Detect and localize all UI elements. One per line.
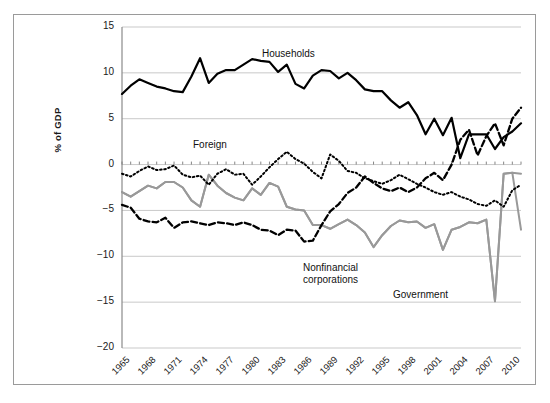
y-axis-label: % of GDP <box>52 70 63 190</box>
series-annotation: Households <box>262 48 315 60</box>
series-annotation: Foreign <box>193 139 227 151</box>
series-annotation: Government <box>393 289 448 301</box>
y-tick-label: 5 <box>80 112 114 123</box>
figure-container: % of GDP 151050−5−10−15−20 1965196819711… <box>0 0 550 403</box>
series-annotation: Nonfinancial <box>303 262 358 274</box>
series-line-foreign <box>122 152 521 207</box>
series-annotation: corporations <box>303 274 358 286</box>
y-tick-label: 15 <box>80 20 114 31</box>
y-tick-label: 0 <box>80 158 114 169</box>
y-tick-label: −5 <box>80 203 114 214</box>
y-tick-label: −15 <box>80 295 114 306</box>
y-tick-label: 10 <box>80 66 114 77</box>
y-tick-label: −10 <box>80 249 114 260</box>
y-tick-label: −20 <box>80 341 114 352</box>
